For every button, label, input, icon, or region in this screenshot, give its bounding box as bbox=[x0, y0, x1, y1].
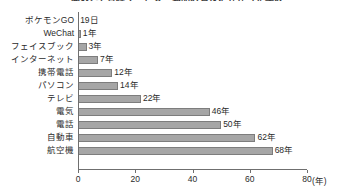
category-label: ポケモンGO bbox=[0, 14, 74, 27]
category-label: フェイスブック bbox=[0, 40, 74, 53]
x-axis-unit-label: (年) bbox=[312, 174, 327, 186]
bar-value-label: 46年 bbox=[212, 105, 230, 118]
chart-row: 電話50年 bbox=[0, 118, 355, 131]
chart-row: テレビ22年 bbox=[0, 92, 355, 105]
bar-value-label: 12年 bbox=[114, 66, 132, 79]
x-tick-label: 80 bbox=[302, 174, 311, 184]
chart-row: ポケモンGO19日 bbox=[0, 14, 355, 27]
bar bbox=[78, 121, 221, 129]
chart-row: 携帯電話12年 bbox=[0, 66, 355, 79]
category-label: テレビ bbox=[0, 92, 74, 105]
x-tick-label: 20 bbox=[131, 174, 140, 184]
bar-value-label: 3年 bbox=[89, 40, 103, 53]
x-tick-mark bbox=[307, 170, 308, 173]
bar bbox=[78, 95, 141, 103]
bar-value-label: 68年 bbox=[275, 144, 293, 157]
bar bbox=[78, 43, 87, 51]
category-label: 携帯電話 bbox=[0, 66, 74, 79]
bar bbox=[78, 108, 210, 116]
x-tick-mark bbox=[78, 170, 79, 173]
x-tick-mark bbox=[193, 170, 194, 173]
x-tick-label: 0 bbox=[76, 174, 81, 184]
chart-row: WeChat1年 bbox=[0, 27, 355, 40]
chart-row: 電気46年 bbox=[0, 105, 355, 118]
chart-title: 図表2-1 各種サービス・製品の普及にかかった年数 bbox=[0, 0, 355, 1]
category-label: 自動車 bbox=[0, 131, 74, 144]
bar-value-label: 22年 bbox=[143, 92, 161, 105]
chart-row: 航空機68年 bbox=[0, 144, 355, 157]
bar bbox=[78, 82, 118, 90]
bar-value-label: 14年 bbox=[120, 79, 138, 92]
bar bbox=[78, 147, 273, 155]
category-label: インターネット bbox=[0, 53, 74, 66]
bar-chart-figure: 図表2-1 各種サービス・製品の普及にかかった年数 ポケモンGO19日WeCha… bbox=[0, 0, 355, 195]
x-tick-mark bbox=[250, 170, 251, 173]
chart-row: インターネット7年 bbox=[0, 53, 355, 66]
chart-row: 自動車62年 bbox=[0, 131, 355, 144]
chart-row: パソコン14年 bbox=[0, 79, 355, 92]
bar bbox=[78, 134, 255, 142]
plot-area: ポケモンGO19日WeChat1年フェイスブック3年インターネット7年携帯電話1… bbox=[0, 12, 355, 170]
category-label: 電話 bbox=[0, 118, 74, 131]
category-label: WeChat bbox=[0, 27, 74, 40]
x-tick-mark bbox=[135, 170, 136, 173]
bar bbox=[78, 69, 112, 77]
x-tick-label: 40 bbox=[188, 174, 197, 184]
y-axis-line bbox=[78, 12, 79, 170]
category-label: パソコン bbox=[0, 79, 74, 92]
category-label: 電気 bbox=[0, 105, 74, 118]
bar-value-label: 50年 bbox=[223, 118, 241, 131]
bar-value-label: 62年 bbox=[257, 131, 275, 144]
category-label: 航空機 bbox=[0, 144, 74, 157]
bar-value-label: 1年 bbox=[83, 27, 97, 40]
x-tick-label: 60 bbox=[245, 174, 254, 184]
chart-row: フェイスブック3年 bbox=[0, 40, 355, 53]
bar-value-label: 19日 bbox=[80, 14, 98, 27]
bar bbox=[78, 56, 98, 64]
bar-value-label: 7年 bbox=[100, 53, 114, 66]
